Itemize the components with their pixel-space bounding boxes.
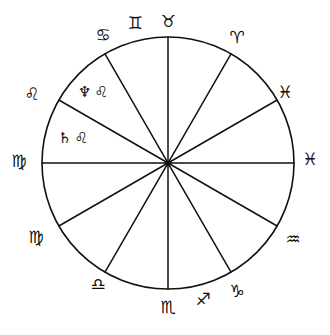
sign-glyph-cancer: ♋	[92, 27, 114, 44]
sign-glyph-pisces: ♓	[299, 151, 321, 168]
saturn-icon: ♄	[58, 129, 71, 147]
neptune-icon: ♆	[78, 83, 91, 101]
sign-glyph-pisces: ♓	[274, 84, 296, 101]
sign-glyph-aquarius: ♒	[282, 231, 304, 248]
house-cusp-line	[105, 54, 168, 163]
sign-glyph-sagittarius: ♐	[192, 291, 214, 308]
sign-glyph-virgo: ♍	[8, 153, 30, 170]
sign-glyph-libra: ♎	[87, 276, 109, 293]
sign-glyph-scorpio: ♏	[157, 299, 179, 316]
house-cusp-line	[168, 54, 231, 163]
chart-wheel-graphic	[0, 0, 330, 335]
sign-glyph-capricorn: ♑	[226, 283, 248, 300]
sign-glyph-aries: ♈	[226, 29, 248, 46]
house-cusp-line	[105, 163, 168, 272]
house-cusp-line	[59, 163, 168, 226]
house-cusp-line	[168, 163, 231, 272]
sign-glyph-leo: ♌	[94, 83, 107, 101]
wheel-hub	[165, 160, 170, 165]
placement-saturn-in-leo: ♄♌	[58, 130, 88, 146]
astrology-chart-figure: ♉♊♋♈♓♓♒♑♐♏♎♍♍♌ ♆♌♄♌	[0, 0, 330, 335]
house-cusp-line	[168, 163, 277, 226]
sign-glyph-taurus: ♉	[157, 13, 179, 30]
sign-glyph-virgo: ♍	[25, 229, 47, 246]
placement-neptune-in-leo: ♆♌	[78, 84, 108, 100]
sign-glyph-leo: ♌	[21, 86, 43, 103]
sign-glyph-gemini: ♊	[124, 15, 146, 32]
sign-glyph-leo: ♌	[74, 129, 87, 147]
house-cusp-line	[168, 100, 277, 163]
